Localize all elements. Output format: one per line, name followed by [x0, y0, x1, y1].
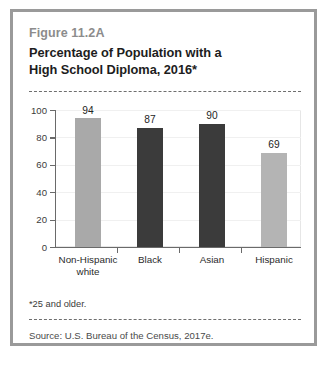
y-tick-label-0: 0 — [25, 243, 47, 253]
y-tick-label-80: 80 — [25, 133, 47, 143]
bar-black[interactable]: 87 — [137, 110, 163, 247]
figure-number: Figure 11.2A — [29, 26, 105, 40]
bar-fill — [75, 118, 101, 247]
figure-inner: Figure 11.2A Percentage of Population wi… — [13, 12, 314, 343]
divider-bottom — [29, 319, 301, 320]
y-tick-label-40: 40 — [25, 188, 47, 198]
footnote: *25 and older. — [29, 299, 86, 309]
bar-fill — [137, 128, 163, 247]
x-axis-label-non-hispanic-white: Non-Hispanic white — [52, 254, 124, 277]
bar-hispanic[interactable]: 69 — [261, 110, 287, 247]
y-tick-mark — [50, 220, 55, 221]
bar-value-label: 90 — [206, 111, 217, 121]
x-axis-label-black: Black — [124, 254, 176, 266]
x-axis-line — [55, 247, 301, 248]
y-tick-mark — [50, 137, 55, 138]
x-axis-label-asian: Asian — [186, 254, 238, 266]
figure-card: Figure 11.2A Percentage of Population wi… — [10, 9, 317, 346]
bar-fill — [199, 124, 225, 247]
x-tick-mark — [117, 248, 118, 253]
y-tick-label-100: 100 — [25, 106, 47, 116]
bar-value-label: 69 — [268, 140, 279, 150]
source-citation: Source: U.S. Bureau of the Census, 2017e… — [29, 330, 214, 341]
figure-title: Percentage of Population with a High Sch… — [29, 44, 297, 78]
bar-value-label: 87 — [144, 115, 155, 125]
y-tick-label-20: 20 — [25, 215, 47, 225]
y-axis-line — [55, 110, 56, 248]
y-tick-mark — [50, 247, 55, 248]
bar-non-hispanic-white[interactable]: 94 — [75, 110, 101, 247]
bar-fill — [261, 153, 287, 248]
y-tick-mark — [50, 192, 55, 193]
y-tick-mark — [50, 110, 55, 111]
y-tick-mark — [50, 165, 55, 166]
y-tick-label-60: 60 — [25, 160, 47, 170]
x-tick-mark — [179, 248, 180, 253]
divider-top — [29, 91, 301, 92]
bar-value-label: 94 — [82, 106, 93, 116]
bar-chart: 100 80 60 40 20 0 94 87 — [29, 104, 303, 264]
bar-asian[interactable]: 90 — [199, 110, 225, 247]
x-tick-mark — [241, 248, 242, 253]
x-axis-label-hispanic: Hispanic — [246, 254, 302, 266]
